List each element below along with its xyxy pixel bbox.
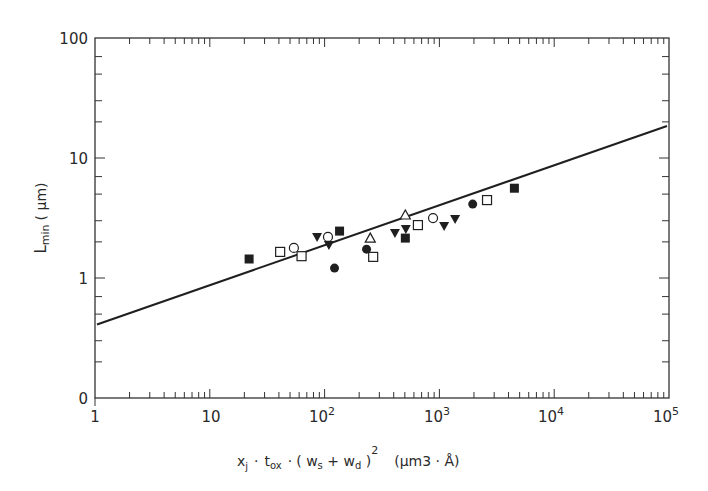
open-square-marker <box>276 247 285 256</box>
y-tick-label-0: 0 <box>78 390 88 408</box>
y-tick-label-100: 100 <box>59 30 88 48</box>
open-circle-marker <box>429 214 438 223</box>
filled-circle-marker <box>330 264 339 273</box>
filled-triangle-down-marker <box>439 222 449 231</box>
x-tick-label-10-4: 104 <box>538 405 564 426</box>
open-square-marker <box>483 196 492 205</box>
y-tick-label-1: 1 <box>78 270 88 288</box>
open-square-marker <box>413 221 422 230</box>
regression-line <box>97 126 667 325</box>
x-tick-label-10-2: 102 <box>309 405 335 426</box>
filled-triangle-down-marker <box>390 229 400 238</box>
filled-triangle-down-marker <box>450 215 460 224</box>
filled-square-marker <box>510 184 519 193</box>
open-square-marker <box>369 252 378 261</box>
filled-circle-marker <box>468 200 477 209</box>
x-tick-label-1: 1 <box>90 408 100 426</box>
plot-border <box>95 38 669 398</box>
y-axis-label: Lmin( µm) <box>32 182 52 253</box>
filled-circle-marker <box>362 245 371 254</box>
open-square-marker <box>297 252 306 261</box>
x-tick-label-10-3: 103 <box>424 405 450 426</box>
log-log-scatter-chart: 100 10 1 0 1 10 102 103 104 105 Lmin( µm… <box>0 0 708 491</box>
filled-square-marker <box>245 254 254 263</box>
x-tick-label-10-5: 105 <box>653 405 679 426</box>
axis-ticks <box>95 38 669 406</box>
filled-triangle-down-marker <box>312 233 322 242</box>
open-circle-marker <box>289 243 298 252</box>
x-tick-label-10: 10 <box>201 408 220 426</box>
open-triangle-up-marker <box>365 233 375 242</box>
y-tick-label-10: 10 <box>69 150 88 168</box>
filled-triangle-down-marker <box>401 225 411 234</box>
x-axis-label: xj·tox·( ws + wd )2(µm3 · Å) <box>237 444 460 472</box>
open-triangle-up-marker <box>400 210 410 219</box>
filled-square-marker <box>335 227 344 236</box>
filled-square-marker <box>401 234 410 243</box>
fit-line <box>97 126 667 325</box>
open-circle-marker <box>323 232 332 241</box>
plot-frame <box>95 38 669 398</box>
